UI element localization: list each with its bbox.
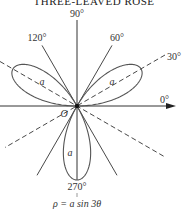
origin-label: O — [60, 108, 67, 119]
equation-label: ρ = a sin 3θ — [52, 198, 101, 209]
radius-label-bottom: a — [68, 147, 73, 158]
radius-label-left: a — [40, 76, 45, 87]
rose-diagram: THREE-LEAVED ROSE 90° 120° 60° 30° 0° 27… — [0, 0, 188, 211]
label-90: 90° — [70, 8, 84, 19]
origin-point — [75, 104, 79, 108]
label-0: 0° — [160, 94, 169, 105]
diagram-title: THREE-LEAVED ROSE — [33, 0, 154, 7]
dashed-150-330 — [0, 62, 165, 158]
label-60: 60° — [110, 32, 124, 43]
label-30: 30° — [167, 51, 181, 62]
label-270: 270° — [68, 181, 87, 192]
label-120: 120° — [28, 32, 47, 43]
radius-label-right: a — [110, 76, 115, 87]
